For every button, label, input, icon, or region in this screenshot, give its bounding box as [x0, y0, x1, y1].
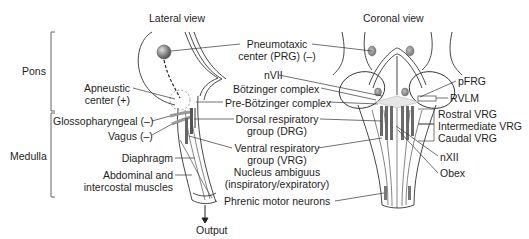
phrenic-label: Phrenic motor neurons [224, 195, 330, 207]
drg-label-1: Dorsal respiratory [232, 113, 322, 125]
pfrg-label: pFRG [458, 75, 486, 87]
pons-label: Pons [22, 65, 46, 77]
apneustic-label-2: center (+) [82, 94, 130, 106]
caudal-vrg-label: Caudal VRG [438, 132, 497, 144]
intermediate-vrg-label: Intermediate VRG [438, 120, 522, 132]
vagus-label: Vagus (–) [108, 130, 153, 142]
rvlm-label: RVLM [450, 92, 479, 104]
diaphragm-label: Diaphragm [100, 152, 173, 164]
nxii-label: nXII [440, 151, 459, 163]
nvii-label: nVII [264, 69, 283, 81]
drg-label-2: group (DRG) [232, 125, 322, 137]
coronal-view-title: Coronal view [363, 12, 424, 24]
vrg-column [185, 118, 188, 144]
glossopharyngeal-label: Glossopharyngeal (–) [53, 115, 153, 127]
rostral-vrg-label: Rostral VRG [438, 108, 497, 120]
nucleus-ambiguus-label-2: (inspiratory/expiratory) [222, 178, 332, 190]
apneustic-label-1: Apneustic [82, 82, 130, 94]
prg-nucleus-right [406, 46, 414, 56]
output-arrow [202, 205, 208, 223]
cranial-nerves [170, 112, 192, 124]
lateral-view-title: Lateral view [149, 12, 205, 24]
obex-label: Obex [440, 167, 465, 179]
vrg-label-1: Ventral respiratory [232, 142, 322, 154]
botzinger-label: Bötzinger complex [233, 83, 319, 95]
medulla-label: Medulla [10, 150, 47, 162]
pneumotaxic-label-1: Pneumotaxic [236, 38, 318, 50]
drg-column [190, 108, 193, 134]
pneumotaxic-label-2: center (PRG) (–) [230, 50, 324, 62]
abdominal-label-1: Abdominal and [80, 169, 173, 181]
vrg-label-2: group (VRG) [232, 154, 322, 166]
pons-bracket [51, 32, 55, 111]
apneustic-region [170, 90, 190, 110]
coronal-boxes [418, 96, 436, 141]
output-label: Output [196, 224, 228, 236]
pre-botzinger-label: Pre-Bötzinger complex [225, 97, 331, 109]
abdominal-label-2: intercostal muscles [80, 181, 173, 193]
pneumotaxic-nucleus [157, 45, 171, 59]
nucleus-ambiguus-label-1: Nucleus ambiguus [222, 166, 332, 178]
